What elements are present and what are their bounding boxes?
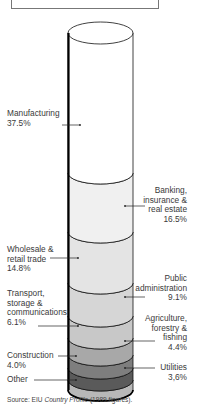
cylinder-top <box>68 22 133 44</box>
label-value: 14.8% <box>7 264 54 274</box>
label-wholesale: Wholesale & retail trade 14.8% <box>7 245 54 274</box>
label-value: 4.4% <box>145 343 187 353</box>
label-manufacturing: Manufacturing 37.5% <box>7 109 60 128</box>
label-value: 37.5% <box>7 119 60 129</box>
label-value: 4.0% <box>7 361 54 371</box>
source-prefix: Source: EIU <box>7 396 43 403</box>
label-other: Other <box>7 375 28 385</box>
source-note: Source: EIU Country Profile (1989 figure… <box>7 396 132 403</box>
label-public-administration: Public administration 9.1% <box>135 274 187 303</box>
label-value: 16.5% <box>143 215 187 225</box>
source-publication: Country Profile <box>44 396 88 403</box>
label-utilities: Utilities 3,6% <box>160 363 187 382</box>
label-banking: Banking, insurance & real estate 16.5% <box>143 186 187 224</box>
label-construction: Construction 4.0% <box>7 351 54 370</box>
label-text: Other <box>7 375 28 385</box>
label-value: 6.1% <box>7 318 67 328</box>
band-manufacturing <box>68 33 133 184</box>
label-transport: Transport, storage & communications 6.1% <box>7 289 67 327</box>
source-suffix: (1989 figures). <box>90 396 133 403</box>
label-agriculture: Agriculture, forestry & fishing 4.4% <box>145 314 187 352</box>
label-value: 9.1% <box>135 293 187 303</box>
label-value: 3,6% <box>160 373 187 383</box>
